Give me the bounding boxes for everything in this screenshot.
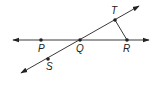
segment-tr: [115, 20, 127, 40]
label-p: P: [38, 43, 45, 54]
label-r: R: [123, 43, 130, 54]
point-r: [125, 38, 129, 42]
point-q: [78, 38, 82, 42]
point-t: [113, 18, 117, 22]
point-p: [39, 38, 43, 42]
label-q: Q: [76, 43, 84, 54]
geometry-diagram: P Q R T S: [0, 0, 159, 85]
label-s: S: [46, 61, 53, 72]
label-t: T: [111, 5, 118, 16]
